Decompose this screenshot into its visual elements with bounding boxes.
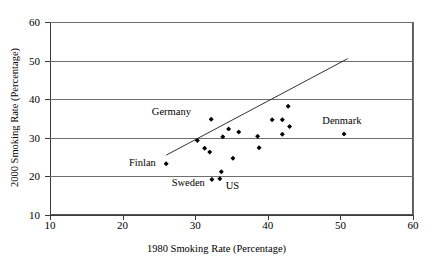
y-tick — [45, 138, 50, 139]
x-axis-spine — [50, 215, 413, 216]
y-tick — [45, 61, 50, 62]
y-tick — [45, 176, 50, 177]
gridline — [50, 176, 413, 177]
y-tick-label: 40 — [0, 94, 40, 105]
x-tick-label: 40 — [248, 220, 288, 231]
y-axis-spine — [50, 22, 51, 215]
point-label: US — [226, 180, 239, 191]
y-axis-title: 2000 Smoking Rate (Percentage) — [9, 18, 20, 218]
gridline — [50, 61, 413, 62]
gridline — [50, 138, 413, 139]
x-tick-label: 30 — [175, 220, 215, 231]
point-label: Germany — [152, 106, 191, 117]
y-tick-label: 50 — [0, 56, 40, 67]
gridline — [50, 99, 413, 100]
x-tick-label: 60 — [393, 220, 433, 231]
x-tick-label: 10 — [30, 220, 70, 231]
y-tick — [45, 22, 50, 23]
y-tick — [45, 99, 50, 100]
plot-top-border — [50, 22, 413, 23]
y-tick-label: 60 — [0, 17, 40, 28]
x-tick-label: 20 — [103, 220, 143, 231]
point-label: Denmark — [322, 115, 361, 126]
y-tick-label: 20 — [0, 171, 40, 182]
x-axis-title: 1980 Smoking Rate (Percentage) — [0, 243, 433, 254]
scatter-chart: 102030405060 102030405060 GermanyDenmark… — [0, 0, 433, 270]
point-label: Sweden — [172, 177, 205, 188]
point-label: Finlan — [129, 157, 156, 168]
y-tick-label: 30 — [0, 133, 40, 144]
x-tick-label: 50 — [320, 220, 360, 231]
plot-right-border — [413, 22, 414, 215]
